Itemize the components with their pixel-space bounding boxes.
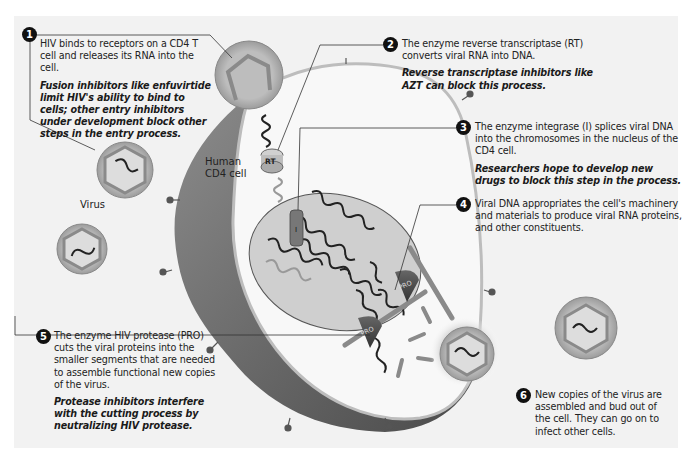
step-2-badge: 2 [383,37,398,52]
step-3-callout: The enzyme integrase (I) splices viral D… [475,121,685,187]
virus-free-1 [97,142,153,198]
step-6-badge: 6 [516,388,531,403]
cell-label-line1: Human [205,156,241,168]
step-1-note: Fusion inhibitors like enfuvirtide limit… [40,80,215,141]
step-5-badge: 5 [36,329,51,344]
step-1-badge: 1 [22,27,37,42]
step-5-callout: The enzyme HIV protease (PRO) cuts the v… [54,330,224,433]
step-3-note: Researchers hope to develop new drugs to… [475,163,685,187]
virus-budding [429,316,501,388]
step-4-callout: Viral DNA appropriates the cell's machin… [475,198,685,235]
virus-label: Virus [80,199,105,211]
step-5-text: The enzyme HIV protease (PRO) cuts the v… [54,330,224,391]
step-6-callout: New copies of the virus are assembled an… [535,389,665,438]
step-2-text: The enzyme reverse transcriptase (RT) co… [402,38,602,62]
step-5-note: Protease inhibitors interfere with the c… [54,396,224,433]
step-3-badge: 3 [456,120,471,135]
integrase-label: I [295,226,297,234]
step-1-text: HIV binds to receptors on a CD4 T cell a… [40,38,215,75]
step-6-text: New copies of the virus are assembled an… [535,389,665,438]
step-3-text: The enzyme integrase (I) splices viral D… [475,121,685,158]
step-4-text: Viral DNA appropriates the cell's machin… [475,198,685,235]
virus-released [555,297,617,359]
virus-free-2 [57,224,107,274]
svg-text:RT: RT [265,157,276,166]
step-1-callout: HIV binds to receptors on a CD4 T cell a… [40,38,215,141]
step-4-badge: 4 [456,197,471,212]
cell-label-line2: CD4 cell [205,168,246,180]
step-2-callout: The enzyme reverse transcriptase (RT) co… [402,38,602,92]
step-2-note: Reverse transcriptase inhibitors like AZ… [402,67,602,91]
